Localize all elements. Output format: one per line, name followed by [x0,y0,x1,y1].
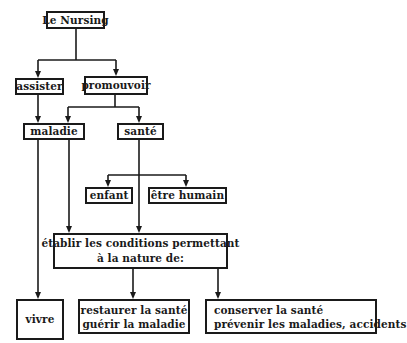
node-label-line-1: établir les conditions permettant [41,236,239,251]
node-etablir-conditions: établir les conditions permettant à la n… [53,233,228,269]
node-etre-humain: être humain [148,187,227,204]
node-restaurer-sante: restaurer la santé guérir la maladie [78,299,190,334]
node-maladie: maladie [23,123,85,140]
node-conserver-sante: conserver la santé prévenir les maladies… [205,299,377,334]
node-enfant: enfant [85,187,133,204]
node-label-line-1: restaurer la santé [81,303,188,317]
node-label: maladie [30,125,77,138]
node-label: être humain [151,189,224,202]
node-label: assister [16,80,62,93]
node-label: Le Nursing [42,14,108,27]
node-promouvoir: promouvoir [84,76,148,95]
node-assister: assister [15,78,64,95]
node-vivre: vivre [16,299,64,340]
node-label-line-2: guérir la maladie [82,317,185,331]
node-label-line-2: à la nature de: [97,251,184,266]
node-sante: santé [117,123,164,140]
node-label-line-1: conserver la santé [214,303,323,317]
node-label: enfant [90,189,129,202]
node-label: santé [124,125,156,138]
node-label: promouvoir [81,79,150,92]
node-label: vivre [26,313,55,326]
node-le-nursing: Le Nursing [46,11,105,29]
node-label-line-2: prévenir les maladies, accidents [214,317,407,331]
